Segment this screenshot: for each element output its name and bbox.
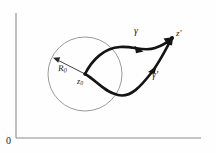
curve-gamma	[85, 38, 172, 74]
endpoint-marker	[170, 36, 174, 40]
radius-label-subscript: 0	[63, 66, 67, 73]
center-label-subscript: 0	[80, 80, 83, 86]
diagram-svg	[0, 0, 216, 153]
center-label: z0	[77, 78, 83, 87]
figure-canvas: 0 R0 z0 γ γ′ z′	[0, 0, 216, 153]
gamma-label: γ	[134, 26, 138, 36]
endpoint-label-prime: ′	[180, 28, 182, 38]
radius-label: R0	[58, 64, 67, 75]
radius-arrowhead-icon	[53, 57, 60, 63]
gamma-prime-label: γ′	[152, 70, 158, 80]
endpoint-label: z′	[176, 29, 181, 38]
origin-label: 0	[6, 136, 11, 146]
